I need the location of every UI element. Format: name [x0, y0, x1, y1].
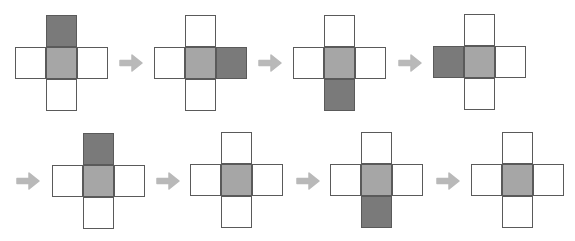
cell-bottom — [46, 79, 77, 111]
cell-center — [361, 164, 392, 196]
cell-bottom — [464, 78, 495, 110]
cell-left — [154, 47, 185, 79]
cell-center — [46, 47, 77, 79]
cell-bottom — [361, 196, 392, 228]
cell-left — [471, 164, 502, 196]
cell-right — [77, 47, 108, 79]
cross-step-2 — [154, 15, 249, 112]
cell-left — [433, 46, 464, 78]
cell-left — [330, 164, 361, 196]
arrow-right-icon — [15, 172, 41, 190]
cell-bottom — [502, 196, 533, 228]
cell-center — [502, 164, 533, 196]
cross-step-1 — [15, 15, 110, 112]
cell-right — [252, 164, 283, 196]
arrow-right-icon — [257, 54, 283, 72]
cell-left — [15, 47, 46, 79]
cell-left — [52, 165, 83, 197]
cross-step-3 — [293, 15, 388, 112]
cross-step-8 — [471, 132, 566, 229]
cell-right — [392, 164, 423, 196]
cell-center — [464, 46, 495, 78]
arrow-right-icon — [295, 172, 321, 190]
cell-top — [324, 15, 355, 47]
arrow-right-icon — [397, 54, 423, 72]
cross-step-5 — [52, 133, 147, 230]
cell-center — [185, 47, 216, 79]
cell-bottom — [324, 79, 355, 111]
cell-right — [533, 164, 564, 196]
cell-right — [355, 47, 386, 79]
cell-top — [46, 15, 77, 47]
arrow-right-icon — [155, 172, 181, 190]
arrow-right-icon — [435, 172, 461, 190]
cell-top — [502, 132, 533, 164]
cell-bottom — [83, 197, 114, 229]
cell-center — [221, 164, 252, 196]
cross-step-7 — [330, 132, 425, 229]
cell-center — [324, 47, 355, 79]
cross-step-4 — [433, 14, 528, 111]
cell-top — [464, 14, 495, 46]
cell-center — [83, 165, 114, 197]
cell-bottom — [221, 196, 252, 228]
cell-right — [495, 46, 526, 78]
cell-top — [361, 132, 392, 164]
cell-left — [190, 164, 221, 196]
cross-step-6 — [190, 132, 285, 229]
cell-top — [83, 133, 114, 165]
cell-top — [185, 15, 216, 47]
arrow-right-icon — [118, 54, 144, 72]
cell-left — [293, 47, 324, 79]
cell-top — [221, 132, 252, 164]
cell-right — [216, 47, 247, 79]
cell-right — [114, 165, 145, 197]
cell-bottom — [185, 79, 216, 111]
